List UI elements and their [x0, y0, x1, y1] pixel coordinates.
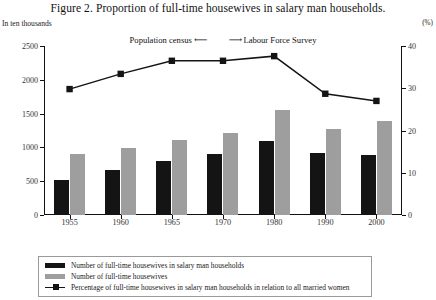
y2-tick [402, 215, 406, 216]
series-annotation: Population census ⟵ ⟶ Labour Force Surve… [44, 34, 402, 45]
legend-label: Number of full-time housewives [71, 271, 167, 282]
legend-item: Number of full-time housewives in salary… [44, 260, 367, 271]
y-tick-label: 500 [26, 177, 38, 186]
line-marker [373, 98, 379, 104]
right-arrow-icon: ⟶ [229, 35, 241, 45]
legend-line-marker [44, 282, 68, 293]
legend-color-swatch [45, 263, 65, 268]
y-tick [40, 215, 44, 216]
plot-area: 05001000150020002500 010203040 195519601… [44, 46, 402, 215]
x-tick-label: 1990 [317, 218, 333, 227]
legend-gray-swatch [44, 271, 68, 282]
figure-title: Figure 2. Proportion of full-time housew… [0, 2, 436, 14]
y2-tick-label: 0 [408, 211, 412, 220]
x-tick-label: 1965 [164, 218, 180, 227]
line-marker [322, 91, 328, 97]
legend-label: Number of full-time housewives in salary… [71, 260, 244, 271]
figure-container: Figure 2. Proportion of full-time housew… [0, 0, 436, 300]
y2-tick-label: 30 [408, 84, 416, 93]
legend-item: Number of full-time housewives [44, 271, 367, 282]
x-tick-label: 1955 [61, 218, 77, 227]
legend-color-swatch [45, 274, 65, 279]
legend-item: Percentage of full-time housewives in sa… [44, 282, 367, 293]
y2-tick [402, 88, 406, 89]
legend-black-swatch [44, 260, 68, 271]
annotation-left-text: Population census [130, 35, 192, 45]
line-marker [169, 58, 175, 64]
x-tick-label: 1970 [215, 218, 231, 227]
line-marker [271, 53, 277, 59]
y-tick-label: 2000 [22, 75, 38, 84]
legend: Number of full-time housewives in salary… [38, 256, 372, 297]
y-tick-label: 1500 [22, 109, 38, 118]
line-marker [118, 71, 124, 77]
y2-tick [402, 131, 406, 132]
line-series-layer [44, 46, 402, 215]
annotation-right-text: Labour Force Survey [243, 35, 316, 45]
x-tick-label: 1960 [113, 218, 129, 227]
legend-square-marker-icon [53, 284, 59, 290]
legend-label: Percentage of full-time housewives in sa… [71, 282, 350, 293]
y2-tick [402, 46, 406, 47]
left-axis-unit-label: In ten thousands [2, 19, 52, 28]
right-axis-unit-label: (%) [422, 19, 433, 27]
y2-tick-label: 20 [408, 126, 416, 135]
x-tick-label: 2000 [368, 218, 384, 227]
x-tick-label: 1980 [266, 218, 282, 227]
y2-tick-label: 10 [408, 168, 416, 177]
y2-tick [402, 173, 406, 174]
y-tick-label: 1000 [22, 143, 38, 152]
line-marker [220, 58, 226, 64]
line-marker [66, 86, 72, 92]
y2-tick-label: 40 [408, 42, 416, 51]
left-arrow-icon: ⟵ [194, 35, 206, 45]
y-tick-label: 0 [34, 211, 38, 220]
y-tick-label: 2500 [22, 42, 38, 51]
